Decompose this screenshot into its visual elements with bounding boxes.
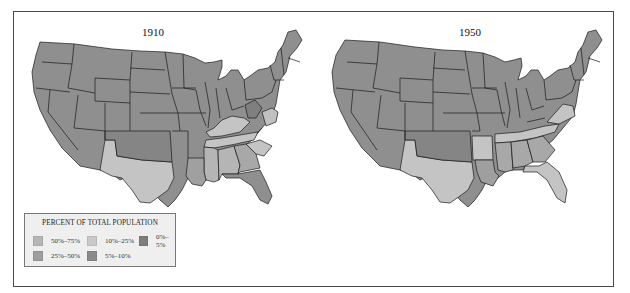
legend-label: 25%–50% [51, 252, 80, 260]
map-title-1910: 1910 [142, 26, 165, 38]
swatch-25-50 [33, 251, 43, 261]
swatch-50-75 [33, 236, 43, 246]
us-map-1910-states [32, 30, 302, 207]
legend: PERCENT OF TOTAL POPULATION 50%–75% 10%–… [24, 213, 176, 267]
map-1950: 1950 [315, 0, 630, 215]
legend-label: 5%–10% [105, 252, 131, 260]
swatch-10-25 [87, 236, 97, 246]
us-map-1950-states [332, 30, 602, 207]
map-1910: 1910 [0, 0, 315, 215]
legend-label: 0%–5% [156, 233, 175, 249]
legend-label: 50%–75% [51, 237, 80, 245]
legend-item-5-10: 5%–10% [87, 250, 131, 261]
legend-title: PERCENT OF TOTAL POPULATION [25, 219, 175, 227]
legend-item-0-5: 0%–5% [139, 235, 175, 246]
legend-item-50-75: 50%–75% [33, 235, 80, 246]
legend-item-25-50: 25%–50% [33, 250, 80, 261]
legend-item-10-25: 10%–25% [87, 235, 134, 246]
swatch-5-10 [87, 251, 97, 261]
swatch-0-5 [139, 236, 148, 246]
map-title-1950: 1950 [459, 26, 482, 38]
legend-label: 10%–25% [105, 237, 134, 245]
